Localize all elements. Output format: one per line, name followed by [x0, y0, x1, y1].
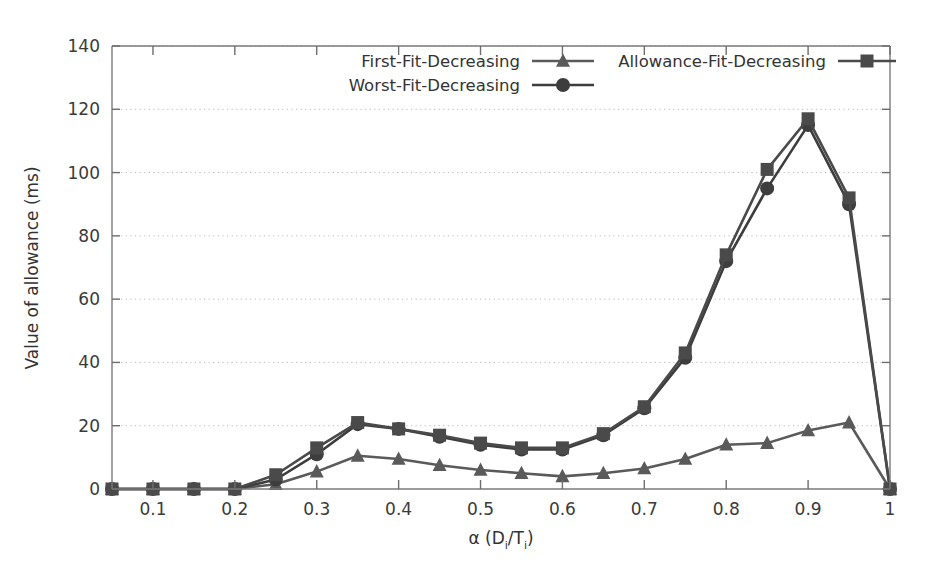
data-point-square-0.55	[515, 441, 528, 454]
y-tick-label-120: 120	[68, 99, 100, 119]
data-point-square-0.6	[556, 441, 569, 454]
legend-label-allowance-fit-decreasing: Allowance-Fit-Decreasing	[618, 52, 826, 71]
y-tick-label-40: 40	[78, 352, 100, 372]
data-point-square-0.8	[720, 248, 733, 261]
x-tick-label-0.4: 0.4	[385, 499, 412, 519]
data-point-square-0.4	[392, 422, 405, 435]
x-tick-label-0.5: 0.5	[467, 499, 494, 519]
y-tick-label-60: 60	[78, 289, 100, 309]
data-point-square-0.35	[351, 416, 364, 429]
y-tick-label-140: 140	[68, 36, 100, 56]
data-point-square-0.3	[310, 441, 323, 454]
data-point-square-0.9	[802, 112, 815, 125]
x-axis-title-close: )	[527, 528, 534, 548]
legend-label-worst-fit-decreasing: Worst-Fit-Decreasing	[349, 76, 520, 95]
data-point-square-0.85	[761, 163, 774, 176]
legend-marker-allowance-fit-decreasing	[861, 55, 874, 68]
y-tick-label-80: 80	[78, 226, 100, 246]
data-point-square-0.75	[679, 346, 692, 359]
data-point-square-0.95	[843, 191, 856, 204]
chart-figure: 0204060801001201400.10.20.30.40.50.60.70…	[0, 0, 925, 577]
data-point-square-0.65	[597, 427, 610, 440]
data-point-square-0.25	[269, 468, 282, 481]
x-tick-label-0.9: 0.9	[795, 499, 822, 519]
data-point-square-0.5	[474, 437, 487, 450]
x-tick-label-1: 1	[885, 499, 896, 519]
x-tick-label-0.1: 0.1	[139, 499, 166, 519]
y-tick-label-100: 100	[68, 163, 100, 183]
y-tick-label-20: 20	[78, 416, 100, 436]
x-tick-label-0.3: 0.3	[303, 499, 330, 519]
data-point-circle-0.85	[760, 181, 774, 195]
x-axis-title-open: (D	[480, 528, 505, 548]
y-axis-title: Value of allowance (ms)	[22, 166, 42, 369]
x-axis-title-alpha: α	[468, 528, 479, 548]
data-point-square-0.45	[433, 429, 446, 442]
x-axis-title-slash: /T	[508, 528, 525, 548]
y-tick-label-0: 0	[89, 479, 100, 499]
x-tick-label-0.7: 0.7	[631, 499, 658, 519]
x-tick-label-0.8: 0.8	[713, 499, 740, 519]
data-point-square-0.7	[638, 400, 651, 413]
x-tick-label-0.2: 0.2	[221, 499, 248, 519]
allowance-line-chart: 0204060801001201400.10.20.30.40.50.60.70…	[0, 0, 925, 577]
x-tick-label-0.6: 0.6	[549, 499, 576, 519]
legend-label-first-fit-decreasing: First-Fit-Decreasing	[361, 52, 520, 71]
legend-marker-worst-fit-decreasing	[556, 78, 570, 92]
